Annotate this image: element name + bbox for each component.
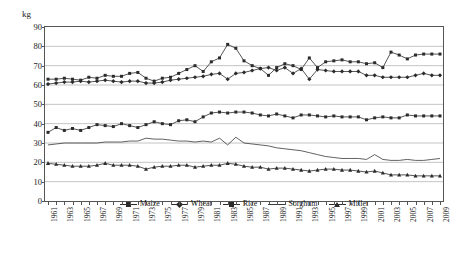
data-point-marker bbox=[87, 76, 90, 79]
data-point-marker bbox=[430, 53, 433, 56]
x-axis-tick-mark bbox=[113, 202, 114, 205]
y-axis-unit-label: kg bbox=[22, 10, 31, 19]
data-point-marker bbox=[145, 77, 148, 80]
x-axis-tick-mark bbox=[432, 202, 433, 205]
data-point-marker bbox=[422, 53, 425, 56]
x-axis-tick-label: 1987 bbox=[263, 207, 271, 222]
x-axis-tick-mark bbox=[146, 202, 147, 205]
data-point-marker bbox=[349, 115, 352, 118]
chart-container: kg 0102030405060708090 MaizeWheatRiceSor… bbox=[0, 0, 462, 255]
y-axis-tick-label: 70 bbox=[22, 61, 42, 70]
x-axis-tick-mark bbox=[130, 202, 131, 205]
x-axis-tick-label: 2003 bbox=[394, 207, 402, 222]
series-line bbox=[48, 112, 440, 132]
y-axis-tick-label: 50 bbox=[22, 100, 42, 109]
data-point-marker bbox=[185, 76, 189, 80]
x-axis-tick-mark bbox=[269, 202, 270, 205]
data-point-marker bbox=[209, 72, 213, 76]
data-point-marker bbox=[292, 116, 295, 119]
data-point-marker bbox=[357, 60, 360, 63]
data-point-marker bbox=[177, 119, 180, 122]
x-axis-tick-mark bbox=[399, 202, 400, 205]
y-axis-tick-label: 10 bbox=[22, 177, 42, 186]
y-axis-tick-label: 40 bbox=[22, 119, 42, 128]
data-point-marker bbox=[267, 74, 270, 77]
data-point-marker bbox=[332, 59, 335, 62]
series-rice bbox=[47, 111, 442, 134]
data-point-marker bbox=[365, 62, 368, 65]
data-point-marker bbox=[87, 126, 90, 129]
x-axis-tick-mark bbox=[252, 202, 253, 205]
data-point-marker bbox=[250, 68, 254, 72]
data-point-marker bbox=[373, 61, 376, 64]
data-point-marker bbox=[398, 116, 401, 119]
x-axis-tick-label: 2001 bbox=[378, 207, 386, 222]
x-axis-tick-mark bbox=[358, 202, 359, 205]
data-point-marker bbox=[55, 126, 58, 129]
y-axis-tick-mark bbox=[42, 85, 45, 86]
data-point-marker bbox=[292, 64, 295, 67]
y-axis-tick-mark bbox=[42, 104, 45, 105]
data-point-marker bbox=[112, 125, 115, 128]
y-axis-tick-label: 20 bbox=[22, 158, 42, 167]
y-axis-tick-mark bbox=[42, 66, 45, 67]
x-axis-tick-mark bbox=[187, 202, 188, 205]
series-line bbox=[48, 137, 440, 160]
data-point-marker bbox=[414, 54, 417, 57]
chart-plot-svg bbox=[45, 27, 443, 201]
x-axis-tick-label: 1997 bbox=[345, 207, 353, 222]
data-point-marker bbox=[210, 60, 213, 63]
data-point-marker bbox=[96, 123, 99, 126]
x-axis-tick-mark bbox=[162, 202, 163, 205]
data-point-marker bbox=[128, 72, 131, 75]
x-axis-tick-label: 1985 bbox=[247, 207, 255, 222]
x-axis-tick-mark bbox=[342, 202, 343, 205]
y-axis: 0102030405060708090 bbox=[20, 26, 42, 202]
data-point-marker bbox=[267, 114, 270, 117]
data-point-marker bbox=[251, 112, 254, 115]
x-axis-tick-mark bbox=[277, 202, 278, 205]
data-point-marker bbox=[389, 75, 393, 79]
x-axis-tick-mark bbox=[73, 202, 74, 205]
x-axis-tick-mark bbox=[228, 202, 229, 205]
data-point-marker bbox=[153, 120, 156, 123]
x-axis-tick-mark bbox=[203, 202, 204, 205]
y-axis-tick-mark bbox=[42, 182, 45, 183]
x-axis-tick-mark bbox=[391, 202, 392, 205]
data-point-marker bbox=[373, 169, 377, 173]
data-point-marker bbox=[340, 69, 344, 73]
data-point-marker bbox=[308, 56, 311, 59]
y-axis-tick-label: 0 bbox=[22, 197, 42, 206]
data-point-marker bbox=[136, 71, 139, 74]
data-point-marker bbox=[390, 116, 393, 119]
y-axis-tick-mark bbox=[42, 124, 45, 125]
data-point-marker bbox=[430, 114, 433, 117]
x-axis-tick-label: 1989 bbox=[280, 207, 288, 222]
x-axis-tick-label: 1965 bbox=[84, 207, 92, 222]
y-axis-tick-label: 90 bbox=[22, 23, 42, 32]
data-point-marker bbox=[266, 66, 270, 70]
data-point-marker bbox=[381, 75, 385, 79]
data-point-marker bbox=[406, 57, 409, 60]
x-axis-tick-mark bbox=[326, 202, 327, 205]
y-axis-tick-label: 80 bbox=[22, 42, 42, 51]
data-point-marker bbox=[210, 112, 213, 115]
data-point-marker bbox=[324, 60, 327, 63]
data-point-marker bbox=[405, 75, 409, 79]
data-point-marker bbox=[169, 123, 172, 126]
x-axis-tick-mark bbox=[416, 202, 417, 205]
x-axis-tick-mark bbox=[211, 202, 212, 205]
x-axis-tick-mark bbox=[350, 202, 351, 205]
data-point-marker bbox=[177, 72, 180, 75]
x-axis-tick-mark bbox=[318, 202, 319, 205]
data-point-marker bbox=[79, 129, 82, 132]
data-point-marker bbox=[381, 66, 384, 69]
x-axis-tick-mark bbox=[383, 202, 384, 205]
data-point-marker bbox=[63, 129, 66, 132]
data-point-marker bbox=[324, 115, 327, 118]
x-axis-tick-mark bbox=[122, 202, 123, 205]
data-point-marker bbox=[145, 123, 148, 126]
x-axis-tick-label: 1975 bbox=[165, 207, 173, 222]
data-point-marker bbox=[47, 131, 50, 134]
x-axis-tick-mark bbox=[81, 202, 82, 205]
